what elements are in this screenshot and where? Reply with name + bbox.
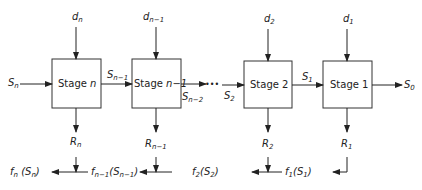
- svg-text:Sn−2: Sn−2: [182, 91, 204, 104]
- stage-1-box: Stage 1: [323, 61, 372, 108]
- svg-text:Stage 1: Stage 1: [330, 79, 368, 90]
- decision-d-2: d2: [264, 13, 275, 61]
- multistage-diagram: Stage n Stage n−1 Stage 2 Stage 1 dn dn−…: [0, 0, 422, 190]
- stage-2-word: Stage: [250, 79, 279, 90]
- svg-text:Sn−1: Sn−1: [107, 69, 128, 82]
- svg-text:Rn−1: Rn−1: [145, 138, 167, 151]
- svg-text:R2: R2: [262, 138, 274, 151]
- stage-1-id: 1: [362, 79, 368, 90]
- svg-text:Rn: Rn: [70, 136, 81, 149]
- svg-text:dn: dn: [72, 11, 83, 24]
- svg-text:Stage n: Stage n: [58, 78, 96, 89]
- stage-1-word: Stage: [330, 79, 359, 90]
- stage-n-id: n: [90, 78, 96, 89]
- decision-d-1: d1: [343, 13, 354, 61]
- objective-f-2: f2(S2): [192, 166, 219, 179]
- decision-d-n-1: dn−1: [143, 11, 164, 59]
- stage-n-1-word: Stage: [134, 78, 163, 89]
- svg-text:d2: d2: [264, 13, 275, 26]
- stage-n-1-box: Stage n−1: [132, 59, 187, 108]
- svg-text:dn−1: dn−1: [143, 11, 164, 24]
- state-s-0: S0: [372, 79, 415, 92]
- svg-text:S1: S1: [302, 71, 313, 84]
- objective-f-n: fn (Sn): [10, 166, 40, 179]
- return-r-n: Rn: [70, 108, 81, 149]
- svg-text:d1: d1: [343, 13, 354, 26]
- state-s-n-2: ••• Sn−2: [181, 80, 219, 104]
- return-r-2: R2: [262, 108, 274, 151]
- state-s-1: S1: [292, 71, 323, 85]
- state-s-2: S2: [222, 85, 244, 103]
- stage-n-word: Stage: [58, 78, 87, 89]
- ellipsis: •••: [205, 80, 219, 89]
- stage-2-id: 2: [282, 79, 288, 90]
- decision-d-n: dn: [72, 11, 83, 59]
- return-r-1: R1: [341, 108, 352, 151]
- state-s-n: Sn: [8, 77, 52, 90]
- svg-text:Sn: Sn: [8, 77, 19, 90]
- svg-text:S0: S0: [404, 79, 415, 92]
- stage-2-box: Stage 2: [244, 61, 292, 108]
- state-s-n-1: Sn−1: [101, 69, 132, 84]
- svg-text:Stage 2: Stage 2: [250, 79, 288, 90]
- svg-text:Stage n−1: Stage n−1: [134, 78, 187, 89]
- svg-text:R1: R1: [341, 138, 352, 151]
- stage-n-box: Stage n: [52, 59, 101, 108]
- svg-text:S2: S2: [224, 90, 235, 103]
- objective-f-1: f1(S1): [285, 166, 312, 179]
- return-r-n-1: Rn−1: [145, 108, 167, 151]
- objective-f-n-1: fn−1(Sn−1): [91, 166, 138, 179]
